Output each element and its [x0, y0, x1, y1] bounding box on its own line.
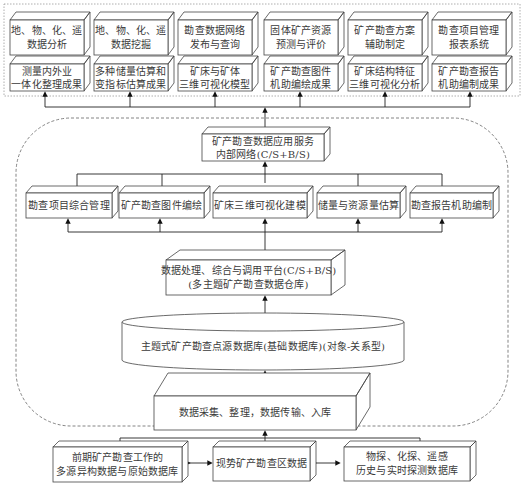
- source-current-data: 现势矿产勘查区数据: [213, 447, 310, 481]
- result-box-survey: 测量内外业 一体化整理成果: [10, 64, 84, 91]
- module-reserve-estimation: 储量与资源量估算: [317, 193, 400, 218]
- module-map-drafting: 矿产勘查图件编绘: [119, 193, 204, 218]
- module-3d-modeling: 矿床三维可视化建模: [213, 193, 307, 218]
- result-box-map-drafting: 矿产勘查图件 机助编绘成果: [264, 64, 338, 91]
- result-box-3d-model: 矿床与矿体 三维可视化模型: [178, 64, 252, 91]
- result-box-geo-analysis: 地、物、化、遥 数据分析: [10, 20, 84, 55]
- result-box-project-report: 勘查项目管理 报表系统: [432, 20, 506, 55]
- app-service-label: 矿产勘查数据应用服务 内部网络(C/S+B/S): [202, 134, 324, 161]
- result-box-reserve-estimation: 多种储量估算和 变指标估算成果: [94, 64, 168, 91]
- database-label: 主题式矿产勘查点源数据库(基础数据库)(对象-关系型): [122, 332, 404, 362]
- module-project-management: 勘查项目综合管理: [26, 193, 112, 218]
- collection-label: 数据采集、整理，数据传输、入库: [154, 396, 356, 430]
- platform-label: 数据处理、综合与调用平台(C/S+B/S) (多主题矿产勘查数据仓库): [166, 260, 331, 295]
- result-box-resource-prediction: 固体矿产资源 预测与评价: [264, 20, 338, 55]
- result-box-3d-analysis: 矿床结构特征 三维可视化分析: [348, 64, 422, 91]
- source-geophysical-data: 物探、化探、遥感 历史与实时探测数据库: [344, 447, 470, 481]
- result-box-network-publish: 勘查数据网络 发布与查询: [178, 20, 252, 55]
- result-box-plan-assist: 矿产勘查方案 辅助制定: [348, 20, 422, 55]
- source-historical-data: 前期矿产勘查工作的 多源异构数据与原始数据库: [53, 447, 182, 482]
- result-box-report-compile: 矿产勘查报告 机助编制成果: [432, 64, 506, 91]
- module-report-compile: 勘查报告机助编制: [410, 193, 493, 218]
- result-box-geo-mining: 地、物、化、遥 数据挖掘: [94, 20, 168, 55]
